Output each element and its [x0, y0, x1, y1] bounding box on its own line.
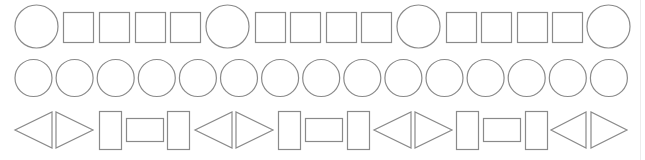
- wide-rectangle-shape: [484, 119, 521, 142]
- square-shape: [100, 13, 130, 43]
- square-shape: [136, 13, 166, 43]
- wide-rectangle-shape: [127, 119, 164, 142]
- square-shape: [518, 13, 548, 43]
- square-shape: [327, 13, 357, 43]
- tall-rectangle-shape: [526, 112, 548, 150]
- square-shape: [171, 13, 201, 43]
- circle-shape: [262, 60, 299, 97]
- square-shape: [482, 13, 512, 43]
- circle-shape: [15, 60, 52, 97]
- tall-rectangle-shape: [168, 112, 190, 150]
- circle-shape: [587, 5, 630, 48]
- square-shape: [291, 13, 321, 43]
- circle-shape: [467, 60, 504, 97]
- tall-rectangle-shape: [100, 112, 122, 150]
- circle-shape: [426, 60, 463, 97]
- square-shape: [553, 13, 583, 43]
- circle-shape: [397, 5, 440, 48]
- circle-shape: [97, 60, 134, 97]
- circle-shape: [549, 60, 586, 97]
- square-shape: [64, 13, 94, 43]
- tall-rectangle-shape: [279, 112, 301, 150]
- circle-shape: [590, 60, 627, 97]
- square-shape: [256, 13, 286, 43]
- circle-shape: [221, 60, 258, 97]
- circle-shape: [303, 60, 340, 97]
- square-shape: [362, 13, 392, 43]
- circle-shape: [138, 60, 175, 97]
- circle-shape: [206, 5, 249, 48]
- circle-shape: [385, 60, 422, 97]
- tall-rectangle-shape: [348, 112, 370, 150]
- circle-shape: [56, 60, 93, 97]
- shape-pattern-diagram: [0, 0, 645, 160]
- circle-shape: [179, 60, 216, 97]
- circle-shape: [344, 60, 381, 97]
- tall-rectangle-shape: [457, 112, 479, 150]
- square-shape: [447, 13, 477, 43]
- circle-shape: [508, 60, 545, 97]
- wide-rectangle-shape: [306, 119, 343, 142]
- row-2-circles: [15, 60, 627, 97]
- circle-shape: [15, 5, 58, 48]
